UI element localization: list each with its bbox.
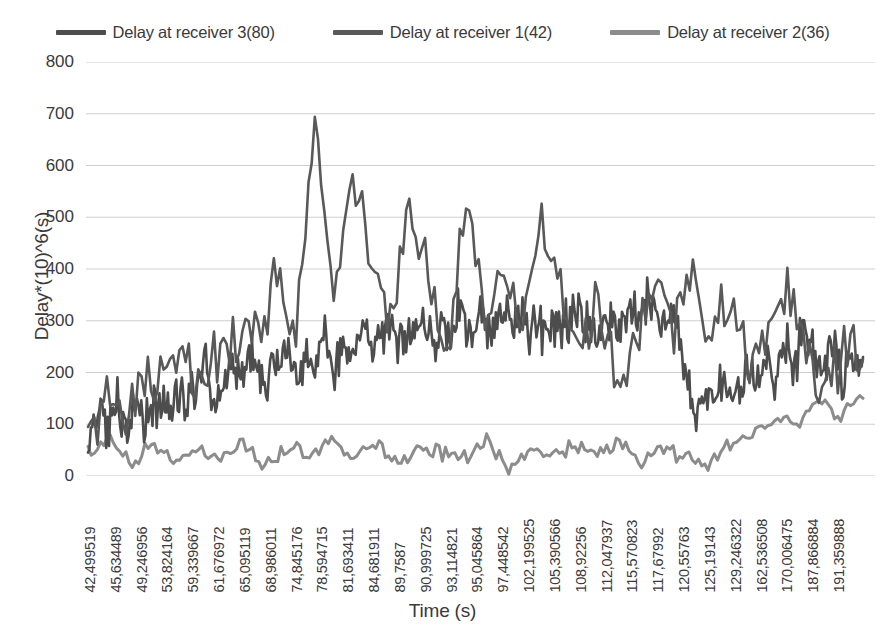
x-tick-label: 117,67992 (651, 527, 666, 592)
x-tick-label: 49,246956 (134, 526, 149, 592)
x-tick-label: 129,246322 (728, 518, 743, 592)
legend-label-receiver-3: Delay at receiver 3(80) (113, 23, 275, 42)
x-tick-label: 78,594715 (315, 526, 330, 592)
chart-legend: Delay at receiver 3(80) Delay at receive… (0, 16, 885, 48)
x-tick-label: 95,045864 (470, 526, 485, 592)
x-tick-label: 90,999725 (418, 526, 433, 592)
series-line (88, 117, 863, 445)
series-line (88, 396, 863, 475)
x-tick-label: 42,499519 (82, 526, 97, 592)
x-tick-label: 125,19143 (702, 526, 717, 592)
legend-label-receiver-2: Delay at receiver 2(36) (667, 23, 829, 42)
x-tick-label: 120,55763 (677, 526, 692, 592)
series-lines (88, 117, 863, 474)
x-axis-title: Time (s) (0, 600, 885, 622)
x-tick-label: 89,7587 (392, 542, 407, 592)
legend-item-receiver-2[interactable]: Delay at receiver 2(36) (610, 23, 829, 42)
legend-item-receiver-1[interactable]: Delay at receiver 1(42) (333, 23, 552, 42)
y-axis-tick-labels: 0100200300400500600700800 (14, 0, 74, 641)
y-tick-label: 400 (16, 260, 74, 277)
x-tick-label: 187,866884 (806, 518, 821, 592)
y-tick-label: 700 (16, 105, 74, 122)
x-tick-label: 59,339667 (186, 526, 201, 592)
x-tick-label: 53,824164 (160, 526, 175, 592)
legend-label-receiver-1: Delay at receiver 1(42) (390, 23, 552, 42)
x-tick-label: 191,359888 (832, 518, 847, 592)
x-tick-label: 108,92256 (573, 526, 588, 592)
x-tick-label: 81,693411 (341, 527, 356, 592)
x-tick-label: 45,634489 (108, 526, 123, 592)
x-tick-label: 84,681911 (367, 527, 382, 592)
y-tick-label: 800 (16, 53, 74, 70)
x-axis-tick-labels: 42,49951945,63448949,24695653,82416459,3… (86, 478, 875, 596)
legend-swatch-receiver-2 (610, 30, 660, 35)
plot-area (86, 62, 875, 476)
x-tick-label: 65,095119 (237, 527, 252, 592)
x-tick-label: 102,199525 (522, 518, 537, 592)
x-tick-label: 61,676972 (212, 526, 227, 592)
y-tick-label: 500 (16, 208, 74, 225)
x-tick-label: 105,390566 (547, 518, 562, 592)
x-tick-label: 112,047937 (599, 519, 614, 592)
y-tick-label: 300 (16, 312, 74, 329)
y-tick-label: 0 (16, 467, 74, 484)
legend-item-receiver-3[interactable]: Delay at receiver 3(80) (56, 23, 275, 42)
x-tick-label: 74,845176 (289, 526, 304, 592)
y-tick-label: 600 (16, 157, 74, 174)
y-tick-label: 200 (16, 364, 74, 381)
plot-svg (86, 62, 875, 476)
x-tick-label: 170,006475 (780, 518, 795, 592)
x-tick-label: 93,114821 (444, 527, 459, 592)
x-tick-label: 162,536508 (754, 518, 769, 592)
x-tick-label: 68,986011 (263, 527, 278, 592)
y-tick-label: 100 (16, 415, 74, 432)
x-tick-label: 97,448542 (496, 526, 511, 592)
x-tick-label: 115,570823 (625, 519, 640, 592)
legend-swatch-receiver-1 (333, 30, 383, 35)
chart-container: Delay at receiver 3(80) Delay at receive… (0, 0, 885, 641)
